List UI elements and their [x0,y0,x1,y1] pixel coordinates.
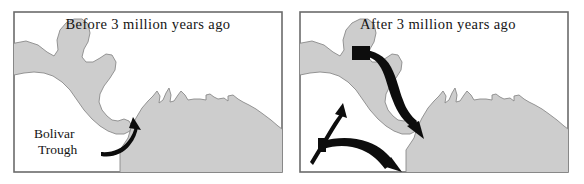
panel-after: After 3 million years ago [294,12,576,176]
figure-root: Bolivar Trough Before 3 million years ag… [0,0,584,184]
panel-before: Bolivar Trough Before 3 million years ag… [8,12,290,176]
panel-after-title: After 3 million years ago [360,16,516,32]
two-panel-map-figure: Bolivar Trough Before 3 million years ag… [0,0,584,184]
panel-before-title: Before 3 million years ago [65,16,230,32]
label-bolivar-trough-line2: Trough [38,142,78,157]
label-bolivar-trough-line1: Bolivar [34,126,75,141]
